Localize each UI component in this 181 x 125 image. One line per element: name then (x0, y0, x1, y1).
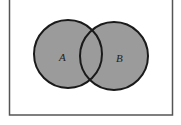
set-a-label: A (58, 51, 66, 63)
set-b-label: B (116, 52, 123, 64)
venn-diagram: A B (0, 0, 181, 125)
